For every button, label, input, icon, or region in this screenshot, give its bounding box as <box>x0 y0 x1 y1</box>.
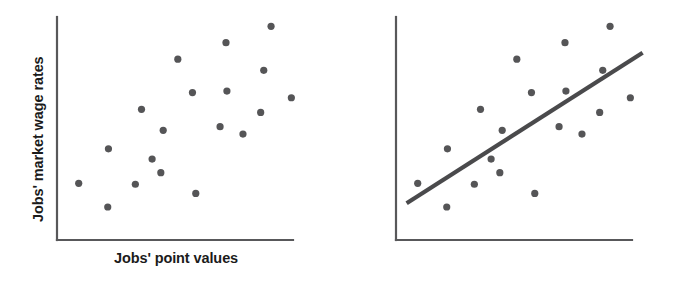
data-point <box>471 181 478 188</box>
data-point <box>496 169 503 176</box>
data-point <box>157 169 164 176</box>
data-point <box>260 67 267 74</box>
y-axis-label-left: Jobs' market wage rates <box>31 56 46 222</box>
data-point <box>239 130 246 137</box>
data-point <box>606 23 613 30</box>
data-point <box>596 109 603 116</box>
data-point <box>132 181 139 188</box>
data-point <box>160 127 167 134</box>
data-point <box>216 123 223 130</box>
data-point <box>513 56 520 63</box>
data-point <box>562 87 569 94</box>
x-axis-label-left: Jobs' point values <box>58 251 294 266</box>
data-point <box>531 190 538 197</box>
data-point <box>192 190 199 197</box>
data-point <box>75 180 82 187</box>
data-point <box>627 94 634 101</box>
data-point <box>528 89 535 96</box>
data-point <box>174 56 181 63</box>
data-point <box>499 127 506 134</box>
scatter-chart-right <box>339 0 678 282</box>
data-point <box>561 39 568 46</box>
chart-panel-left: Jobs' point values Jobs' market wage rat… <box>0 0 339 282</box>
data-point <box>222 39 229 46</box>
data-point <box>138 106 145 113</box>
data-point <box>488 155 495 162</box>
data-point <box>223 87 230 94</box>
data-point <box>578 130 585 137</box>
data-point <box>443 203 450 210</box>
data-point <box>599 67 606 74</box>
data-point <box>189 89 196 96</box>
data-point <box>104 203 111 210</box>
data-point <box>105 145 112 152</box>
data-point <box>257 109 264 116</box>
data-point <box>149 155 156 162</box>
data-point <box>414 180 421 187</box>
scatter-plot-figure: Jobs' point values Jobs' market wage rat… <box>0 0 678 282</box>
data-point <box>444 145 451 152</box>
data-point <box>288 94 295 101</box>
data-point <box>267 23 274 30</box>
data-point <box>555 123 562 130</box>
scatter-chart-left <box>0 0 339 282</box>
chart-panel-right: Jobs' point values Jobs' market wage rat… <box>339 0 678 282</box>
regression-trend-line <box>407 53 643 204</box>
data-point <box>477 106 484 113</box>
